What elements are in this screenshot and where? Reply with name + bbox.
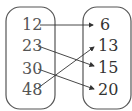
- arrow-23-15: [38, 46, 94, 66]
- codomain-value: 13: [98, 38, 118, 54]
- codomain-value: 15: [98, 60, 118, 76]
- codomain-value: 6: [100, 17, 110, 33]
- domain-value: 23: [22, 38, 42, 54]
- codomain-value: 20: [98, 82, 118, 98]
- arrow-48-13: [38, 47, 94, 88]
- arrow-30-20: [38, 69, 94, 89]
- domain-value: 12: [22, 17, 42, 33]
- domain-value: 48: [22, 82, 42, 98]
- domain-value: 30: [22, 61, 42, 77]
